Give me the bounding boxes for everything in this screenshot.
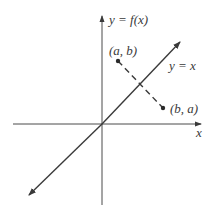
point-a-b	[116, 59, 120, 63]
point-a-b-label: (a, b)	[109, 43, 137, 58]
x-axis-label: x	[195, 125, 202, 140]
point-b-a-label: (b, a)	[170, 101, 198, 116]
line-y-equals-x-lower	[29, 124, 102, 195]
point-b-a	[161, 106, 165, 110]
reflection-diagram: y = f(x) (a, b) y = x (b, a) x	[0, 0, 222, 209]
y-axis-label: y = f(x)	[107, 12, 148, 27]
diagonal-label: y = x	[167, 58, 196, 73]
